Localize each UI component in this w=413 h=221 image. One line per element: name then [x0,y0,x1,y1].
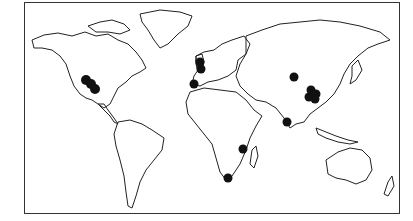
continent-south-america [114,120,164,208]
site-marker-india-south [283,118,292,127]
new-zealand [384,176,394,196]
continent-north-america [32,32,146,108]
madagascar [250,146,258,168]
site-marker-south-africa [224,174,233,183]
continent-australia [326,148,372,184]
site-marker-central-asia [290,73,299,82]
arctic-islands [88,20,130,34]
central-america [98,104,118,124]
japan [350,60,362,84]
indonesia [316,128,358,144]
continent-asia [236,20,390,128]
site-marker-british-isles-2 [197,65,206,74]
site-marker-iberia [190,80,199,89]
continent-africa [186,88,262,180]
site-marker-north-america-west-3 [90,84,100,94]
greenland [140,10,192,48]
site-markers [81,58,321,183]
world-map [0,0,413,221]
site-marker-east-africa [239,145,248,154]
site-marker-china-4 [311,95,320,104]
